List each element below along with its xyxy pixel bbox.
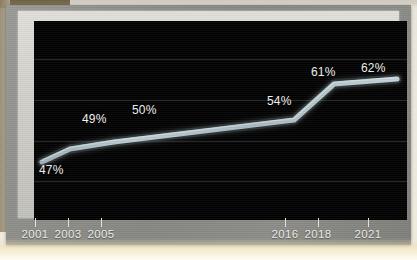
value-label-2001: 47% (39, 163, 64, 177)
x-axis-tick (101, 218, 102, 227)
value-label-2016: 54% (267, 94, 292, 108)
value-label-2018: 61% (311, 65, 336, 79)
x-axis-tick (35, 218, 36, 227)
chart-bevel: 47% 49% 50% 54% 61% 62% (18, 11, 399, 218)
value-label-2021: 62% (361, 61, 386, 75)
value-label-2005: 50% (132, 103, 157, 117)
x-axis-tick (285, 218, 286, 227)
x-axis-tick (318, 218, 319, 227)
chart-frame: 47% 49% 50% 54% 61% 62% 2001 2003 2005 2… (6, 5, 411, 245)
x-axis-tick (368, 218, 369, 227)
chart-plot-area: 47% 49% 50% 54% 61% 62% (34, 21, 407, 220)
value-label-2003: 49% (82, 112, 107, 126)
x-axis-tick (68, 218, 69, 227)
bottom-light-glow (0, 238, 417, 260)
screenshot-root: 47% 49% 50% 54% 61% 62% 2001 2003 2005 2… (0, 0, 417, 260)
